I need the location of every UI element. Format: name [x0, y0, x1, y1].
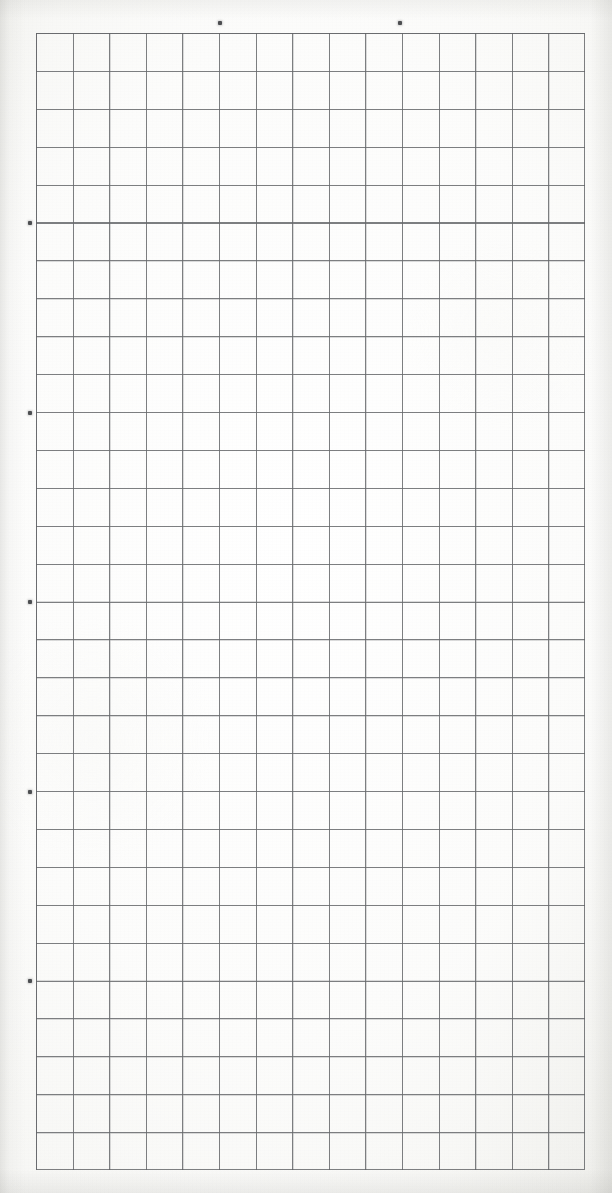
grid-outer-border — [36, 33, 585, 1170]
left-mark-4-icon — [28, 790, 32, 794]
left-mark-3-icon — [28, 600, 32, 604]
left-mark-5-icon — [28, 979, 32, 983]
grid-area — [36, 33, 585, 1170]
top-mark-2-icon — [398, 21, 402, 25]
scanned-page — [0, 0, 612, 1193]
left-mark-2-icon — [28, 411, 32, 415]
top-mark-1-icon — [218, 21, 222, 25]
left-mark-1-icon — [28, 221, 32, 225]
